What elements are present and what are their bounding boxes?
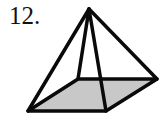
pyramid-base bbox=[28, 79, 157, 111]
pyramid-diagram bbox=[0, 0, 165, 130]
figure-canvas: 12. bbox=[0, 0, 165, 130]
